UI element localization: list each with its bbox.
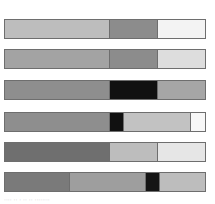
- caption: ···· ·· · ·· ·· ········: [4, 196, 134, 204]
- bar-row-3: [4, 80, 206, 100]
- bar-segment: [110, 50, 159, 68]
- bar-segment: [191, 113, 205, 131]
- bar-row-2: [4, 49, 206, 69]
- bar-segment: [146, 173, 161, 191]
- bar-row-5: [4, 142, 206, 162]
- bar-segment: [5, 50, 110, 68]
- bar-segment: [5, 20, 110, 38]
- bar-segment: [158, 20, 205, 38]
- bar-segment: [124, 113, 191, 131]
- bar-segment: [110, 81, 159, 99]
- bar-row-6: [4, 172, 206, 192]
- bar-segment: [160, 173, 205, 191]
- bar-segment: [158, 81, 205, 99]
- bar-row-1: [4, 19, 206, 39]
- bar-segment: [158, 50, 205, 68]
- bar-row-4: [4, 112, 206, 132]
- bar-segment: [70, 173, 145, 191]
- bar-segment: [158, 143, 205, 161]
- bar-segment: [5, 113, 110, 131]
- bar-segment: [5, 143, 110, 161]
- bar-segment: [110, 143, 159, 161]
- bar-segment: [5, 173, 70, 191]
- bar-segment: [110, 20, 159, 38]
- bar-segment: [110, 113, 124, 131]
- bar-segment: [5, 81, 110, 99]
